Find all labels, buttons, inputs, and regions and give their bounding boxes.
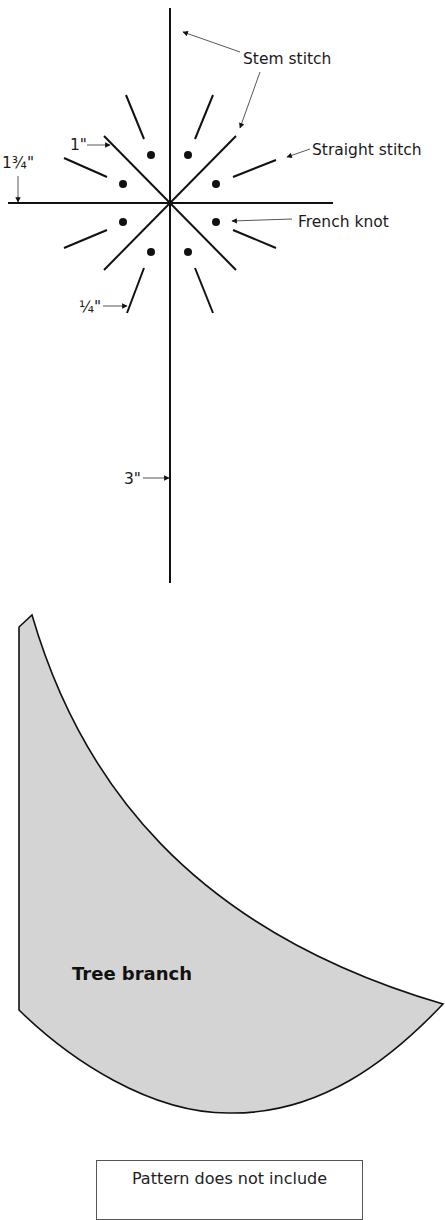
one-inch-label: 1": [70, 136, 87, 154]
french-knot-arrow: [232, 219, 292, 221]
straight-stitch-label: Straight stitch: [312, 141, 422, 159]
one-three-quarter-inch-label: 1¾": [2, 154, 34, 172]
straight-stitch-arrow: [287, 149, 310, 157]
stem-stitch-label: Stem stitch: [243, 50, 331, 68]
stem-stitch-arrow-1: [183, 32, 240, 52]
three-inch-label: 3": [124, 470, 141, 488]
quarter-inch-label: ¼": [79, 298, 101, 316]
stem-stitch-arrow-2: [240, 72, 260, 128]
stem-stitch-lines: [8, 8, 333, 583]
pattern-note-box: Pattern does not include: [96, 1160, 363, 1220]
pattern-note-text: Pattern does not include: [97, 1169, 362, 1188]
tree-branch-shape: [19, 615, 443, 1113]
french-knot-label: French knot: [298, 213, 389, 231]
tree-branch-label: Tree branch: [72, 963, 192, 984]
